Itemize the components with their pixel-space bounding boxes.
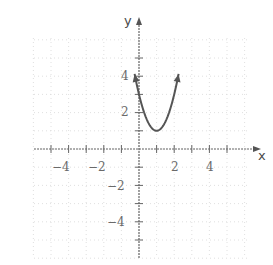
parabola-graph: x y −4 −2 2 4 4 2 −2 −4 xyxy=(0,0,273,265)
curve-arrow-right-icon xyxy=(174,74,181,83)
y-tick-label-neg2: −2 xyxy=(107,179,125,193)
x-tick-label-neg4: −4 xyxy=(52,160,70,174)
y-tick-label-2: 2 xyxy=(121,105,129,119)
curve-arrow-left-icon xyxy=(133,74,140,83)
y-tick-label-neg4: −4 xyxy=(107,215,125,229)
x-axis-label: x xyxy=(258,148,266,163)
x-tick-label-4: 4 xyxy=(206,160,214,174)
y-tick-label-4: 4 xyxy=(121,69,129,83)
y-axis-label: y xyxy=(124,13,132,28)
x-tick-label-neg2: −2 xyxy=(88,160,106,174)
grid-lines xyxy=(33,38,250,258)
x-tick-label-2: 2 xyxy=(171,160,179,174)
